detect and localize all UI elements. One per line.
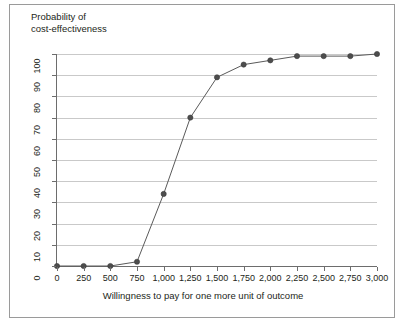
gridline	[57, 160, 377, 161]
x-axis-tick	[324, 267, 325, 271]
y-axis-tick-label: 100	[32, 53, 42, 79]
plot-area	[57, 54, 377, 266]
x-axis-tick	[217, 267, 218, 271]
x-axis-tick-label: 3,000	[357, 273, 397, 283]
gridline	[57, 75, 377, 76]
gridline	[57, 139, 377, 140]
y-axis-tick	[52, 202, 56, 203]
x-axis-tick	[244, 267, 245, 271]
y-axis-tick	[52, 181, 56, 182]
y-axis-tick	[52, 160, 56, 161]
x-axis-tick	[164, 267, 165, 271]
y-axis-tick	[52, 54, 56, 55]
x-axis-tick	[190, 267, 191, 271]
y-axis-tick	[52, 75, 56, 76]
x-axis-tick	[110, 267, 111, 271]
y-axis-tick	[52, 266, 56, 267]
gridline	[57, 202, 377, 203]
y-axis-tick	[52, 224, 56, 225]
x-axis-title: Willingness to pay for one more unit of …	[0, 290, 406, 301]
y-axis-tick	[52, 139, 56, 140]
y-axis-line	[56, 54, 57, 267]
y-axis-tick	[52, 245, 56, 246]
gridline	[57, 118, 377, 119]
x-axis-tick	[137, 267, 138, 271]
gridline	[57, 96, 377, 97]
gridline	[57, 54, 377, 55]
x-axis-tick	[350, 267, 351, 271]
gridline	[57, 245, 377, 246]
x-axis-tick	[57, 267, 58, 271]
y-axis-title: Probability of cost-effectiveness	[31, 11, 107, 34]
gridline	[57, 224, 377, 225]
x-axis-tick	[270, 267, 271, 271]
cost-effectiveness-acceptability-chart: Probability of cost-effectiveness 010203…	[0, 0, 406, 333]
x-axis-tick	[297, 267, 298, 271]
gridline	[57, 181, 377, 182]
y-axis-tick	[52, 118, 56, 119]
y-axis-tick	[52, 96, 56, 97]
x-axis-tick	[84, 267, 85, 271]
x-axis-tick	[377, 267, 378, 271]
